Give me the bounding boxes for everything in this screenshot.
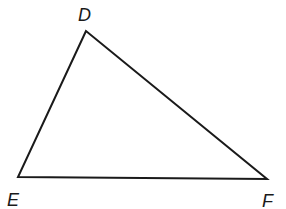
triangle-def — [18, 31, 267, 179]
vertex-label-d: D — [78, 5, 91, 25]
vertex-label-f: F — [262, 191, 274, 209]
vertex-label-e: E — [7, 190, 20, 209]
triangle-diagram: D E F — [0, 0, 286, 209]
